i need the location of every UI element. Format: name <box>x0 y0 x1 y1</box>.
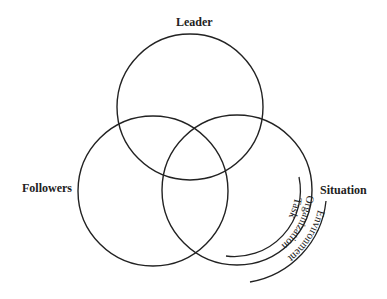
venn-diagram: Task Organization Environment <box>0 0 387 299</box>
followers-circle <box>78 116 228 266</box>
leader-label: Leader <box>176 15 213 30</box>
followers-label: Followers <box>22 181 72 196</box>
leader-circle <box>117 34 263 180</box>
situation-label: Situation <box>320 183 367 198</box>
